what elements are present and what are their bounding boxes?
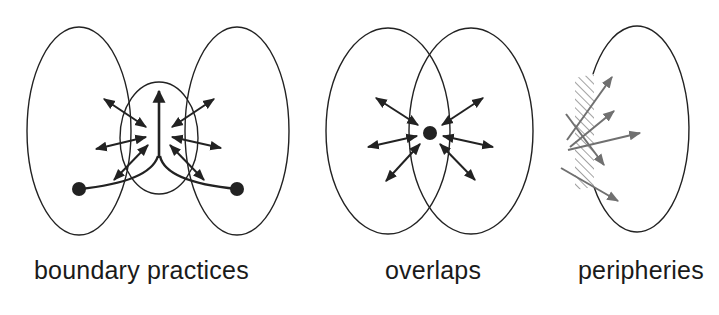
peripheries-panel <box>561 26 689 232</box>
periphery-hatch <box>575 74 594 190</box>
peripheries-label: peripheries <box>578 256 704 285</box>
right-community-ellipse <box>185 27 289 235</box>
diagram-canvas <box>0 0 719 250</box>
overlap-center-dot <box>423 126 437 140</box>
overlaps-label: overlaps <box>385 256 481 285</box>
boundary-practices-label: boundary practices <box>34 256 249 285</box>
left-node-dot <box>72 182 86 196</box>
right-node-dot <box>230 182 244 196</box>
boundary-practices-panel <box>27 27 289 235</box>
overlaps-panel <box>326 28 533 234</box>
left-community-ellipse <box>27 27 131 235</box>
periphery-ellipse <box>593 26 689 232</box>
periphery-arrows <box>561 77 640 201</box>
boundary-arrows <box>79 91 237 189</box>
